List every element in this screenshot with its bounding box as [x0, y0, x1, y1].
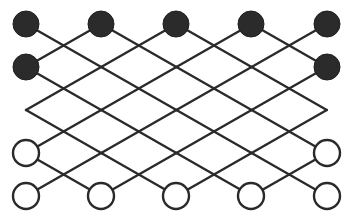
lattice-edge: [64, 153, 102, 175]
filled-node-circle: [13, 54, 39, 80]
lattice-edge: [214, 153, 252, 175]
filled-node-circle: [163, 11, 189, 37]
filled-node-circle: [238, 11, 264, 37]
lattice-network-diagram: [0, 0, 349, 217]
lattice-edge: [289, 110, 327, 132]
hollow-node-circle: [88, 183, 114, 209]
lattice-edge: [214, 110, 252, 132]
hollow-node-circle: [13, 140, 39, 166]
filled-node-circle: [314, 54, 340, 80]
lattice-edge: [176, 153, 214, 175]
lattice-edge: [101, 46, 139, 68]
lattice-edge: [64, 46, 102, 68]
lattice-edge: [214, 46, 252, 68]
lattice-edge: [64, 132, 102, 154]
lattice-edge: [289, 89, 327, 111]
hollow-node-circle: [314, 140, 340, 166]
lattice-edge: [214, 132, 252, 154]
hollow-node-circle: [238, 183, 264, 209]
lattice-edge: [101, 153, 139, 175]
lattice-edge: [64, 89, 102, 111]
lattice-edge: [252, 67, 290, 89]
lattice-edge: [252, 110, 290, 132]
lattice-edge: [64, 67, 102, 89]
lattice-edge: [139, 89, 177, 111]
lattice-edge: [101, 89, 139, 111]
lattice-edge: [252, 89, 290, 111]
filled-node-circle: [13, 11, 39, 37]
hollow-node-circle: [314, 183, 340, 209]
lattice-edge: [101, 110, 139, 132]
lattice-edge: [214, 89, 252, 111]
lattice-edge: [176, 89, 214, 111]
lattice-edge: [64, 110, 102, 132]
lattice-edge: [26, 110, 64, 132]
lattice-edge: [139, 110, 177, 132]
filled-node-circle: [314, 11, 340, 37]
hollow-node-circle: [163, 183, 189, 209]
lattice-edge: [252, 153, 290, 175]
lattice-edge: [139, 67, 177, 89]
lattice-edge: [252, 46, 290, 68]
filled-node-circle: [88, 11, 114, 37]
hollow-node-circle: [13, 183, 39, 209]
lattice-edge: [139, 153, 177, 175]
lattice-edge: [214, 67, 252, 89]
lattice-edge: [176, 110, 214, 132]
lattice-edge: [176, 46, 214, 68]
lattice-edge: [176, 132, 214, 154]
lattice-edge: [101, 132, 139, 154]
lattice-edges: [26, 24, 327, 196]
lattice-edge: [252, 132, 290, 154]
lattice-edge: [176, 67, 214, 89]
lattice-edge: [139, 46, 177, 68]
lattice-edge: [139, 132, 177, 154]
lattice-edge: [101, 67, 139, 89]
lattice-edge: [26, 89, 64, 111]
